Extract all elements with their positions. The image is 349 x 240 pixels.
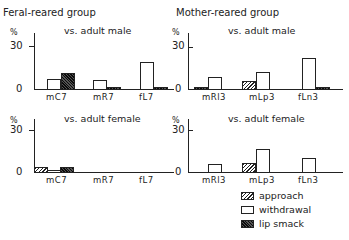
category-label: fLn3 xyxy=(298,176,319,185)
y-tick-mark xyxy=(29,46,34,47)
category-label: mC7 xyxy=(46,176,67,185)
bar-approach-mRl3 xyxy=(194,87,208,90)
bar-withdrawal-mC7 xyxy=(47,79,61,90)
bar-approach-mLp3 xyxy=(242,81,256,90)
bar-lipsmack-mC7 xyxy=(60,167,74,173)
category-label: fLn3 xyxy=(298,93,319,102)
panel-subtitle: vs. adult female xyxy=(64,114,141,124)
bar-withdrawal-mC7 xyxy=(47,170,61,173)
y-tick-mark xyxy=(29,130,34,131)
legend-label-withdrawal: withdrawal xyxy=(259,205,311,215)
feral-group-title: Feral-reared group xyxy=(3,8,96,18)
panel-subtitle: vs. adult male xyxy=(64,26,131,36)
bar-withdrawal-fL7 xyxy=(140,62,154,90)
legend-swatch-lip-smack xyxy=(241,220,254,228)
y-tick-0: 0 xyxy=(175,167,181,177)
y-tick-0: 0 xyxy=(175,84,181,94)
category-label: mR7 xyxy=(93,93,114,102)
bar-withdrawal-fLn3 xyxy=(302,158,316,173)
category-label: mLp3 xyxy=(249,93,275,102)
legend-swatch-approach xyxy=(241,192,254,200)
y-unit-label: % xyxy=(172,29,180,37)
legend-swatch-withdrawal xyxy=(241,206,254,214)
y-axis xyxy=(34,33,35,89)
bar-withdrawal-mR7 xyxy=(93,80,107,90)
bar-approach-mC7 xyxy=(34,167,48,173)
panel-subtitle: vs. adult male xyxy=(228,26,295,36)
bar-lipsmack-fL7 xyxy=(154,87,168,90)
y-tick-0: 0 xyxy=(16,84,22,94)
mother-group-title: Mother-reared group xyxy=(176,8,279,18)
y-tick-0: 0 xyxy=(16,167,22,177)
bar-lipsmack-mR7 xyxy=(107,87,121,90)
category-label: fL7 xyxy=(139,176,154,185)
bar-lipsmack-fLn3 xyxy=(316,87,330,90)
y-tick-mark xyxy=(188,130,193,131)
y-axis xyxy=(34,119,35,172)
legend-label-approach: approach xyxy=(259,191,303,201)
category-label: mR7 xyxy=(93,176,114,185)
y-tick-30: 30 xyxy=(10,125,23,135)
panel-subtitle: vs. adult female xyxy=(228,114,305,124)
y-axis xyxy=(188,33,189,89)
category-label: mLp3 xyxy=(249,176,275,185)
bar-withdrawal-mRl3 xyxy=(208,164,222,173)
bar-withdrawal-mLp3 xyxy=(256,149,270,173)
y-tick-30: 30 xyxy=(172,125,185,135)
y-tick-30: 30 xyxy=(172,41,185,51)
category-label: mRl3 xyxy=(202,93,226,102)
category-label: mRl3 xyxy=(202,176,226,185)
category-label: mC7 xyxy=(46,93,67,102)
bar-withdrawal-mLp3 xyxy=(256,72,270,90)
bar-approach-mLp3 xyxy=(242,163,256,173)
y-tick-mark xyxy=(188,47,193,48)
y-unit-label: % xyxy=(10,29,18,37)
bar-withdrawal-mRl3 xyxy=(208,77,222,90)
category-label: fL7 xyxy=(139,93,154,102)
legend-label-lip-smack: lip smack xyxy=(259,219,304,229)
y-axis xyxy=(188,119,189,172)
bar-withdrawal-fLn3 xyxy=(302,58,316,90)
y-tick-30: 30 xyxy=(10,41,23,51)
bar-lipsmack-mC7 xyxy=(61,73,75,90)
